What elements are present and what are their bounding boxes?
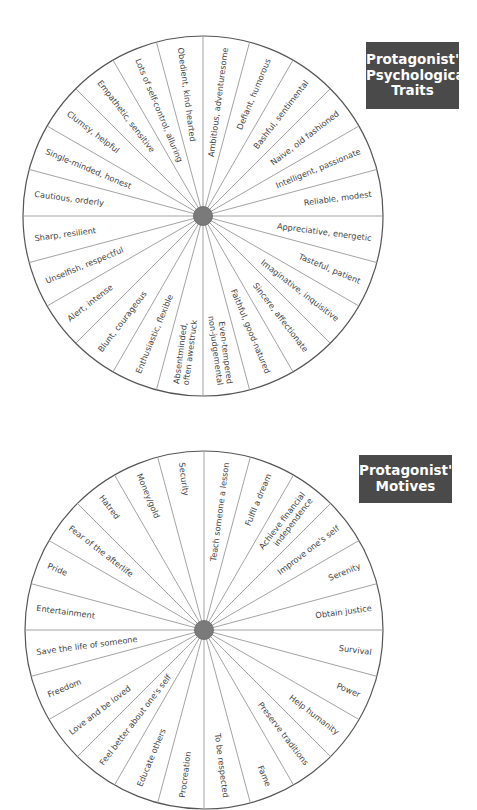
title-line: Protagonist's: [359, 463, 452, 479]
title-line: Motives: [359, 479, 452, 495]
wheel-motives: Teach someone a lessonFulfil a dreamAchi…: [0, 0, 477, 810]
wheel-hub: [195, 621, 214, 640]
wheel-title-motives: Protagonist'sMotives: [359, 455, 452, 503]
